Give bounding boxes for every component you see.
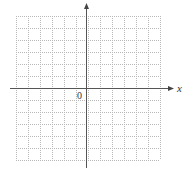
x-axis-label: x [176,82,182,94]
coordinate-grid-figure: x 0 [0,0,194,174]
x-axis-arrow-icon [168,86,174,91]
y-axis-arrow-icon [84,3,89,9]
origin-label: 0 [77,90,82,101]
